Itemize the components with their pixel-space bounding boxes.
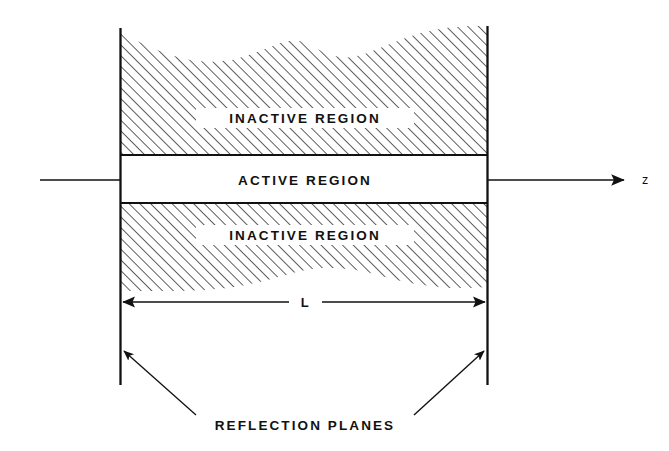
lower-inactive-region-label: INACTIVE REGION [229,228,381,243]
length-dimension-label: L [301,295,309,310]
laser-cavity-diagram: z L REFLECTION PLANES INACTIVE REGION AC… [0,0,669,451]
z-axis-label: z [642,173,648,187]
active-region-label: ACTIVE REGION [238,173,372,188]
upper-inactive-region-label: INACTIVE REGION [229,111,381,126]
active-region-label-group: ACTIVE REGION [238,173,372,188]
upper-inactive-region-label-group: INACTIVE REGION [196,108,414,128]
reflection-planes-label: REFLECTION PLANES [215,418,395,433]
lower-inactive-region-label-group: INACTIVE REGION [196,225,414,245]
